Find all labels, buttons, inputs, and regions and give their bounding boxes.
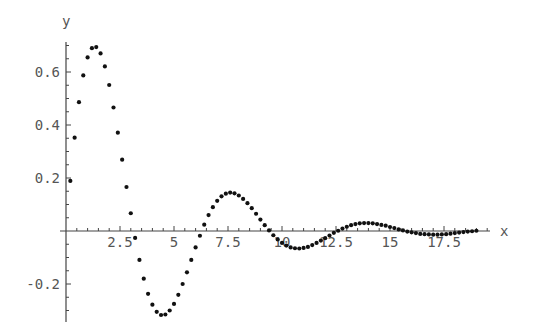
- data-point: [241, 197, 245, 201]
- data-point: [181, 282, 185, 286]
- data-point: [327, 233, 331, 237]
- data-point: [111, 105, 115, 109]
- y-axis-label: y: [62, 13, 70, 29]
- data-point: [448, 232, 452, 236]
- data-point: [332, 231, 336, 235]
- data-point: [276, 237, 280, 241]
- data-point: [284, 243, 288, 247]
- data-point: [457, 230, 461, 234]
- data-point: [172, 302, 176, 306]
- y-tick-label: 0.6: [35, 64, 60, 80]
- data-point: [254, 212, 258, 216]
- data-point: [310, 243, 314, 247]
- y-tick-label: 0.2: [35, 170, 60, 186]
- data-point: [340, 227, 344, 231]
- data-point: [349, 223, 353, 227]
- data-point: [293, 246, 297, 250]
- data-point: [211, 205, 215, 209]
- data-point: [77, 100, 81, 104]
- data-point: [98, 51, 102, 55]
- data-point: [81, 73, 85, 77]
- data-point: [68, 179, 72, 183]
- data-point: [470, 229, 474, 233]
- data-point: [418, 232, 422, 236]
- data-point: [237, 193, 241, 197]
- data-point: [345, 225, 349, 229]
- data-point: [107, 83, 111, 87]
- data-point: [358, 221, 362, 225]
- data-point: [319, 238, 323, 242]
- data-point: [155, 310, 159, 314]
- data-point: [336, 229, 340, 233]
- data-point: [302, 246, 306, 250]
- data-point: [384, 224, 388, 228]
- data-point: [401, 228, 405, 232]
- data-point: [159, 313, 163, 317]
- data-point: [73, 136, 77, 140]
- data-point: [263, 223, 267, 227]
- data-point: [94, 45, 98, 49]
- data-point: [422, 232, 426, 236]
- data-point: [323, 236, 327, 240]
- data-point: [245, 201, 249, 205]
- data-point: [444, 232, 448, 236]
- data-point: [410, 230, 414, 234]
- data-point: [250, 206, 254, 210]
- data-point: [271, 233, 275, 237]
- data-point: [280, 241, 284, 245]
- data-point: [146, 292, 150, 296]
- data-point: [150, 303, 154, 307]
- data-point: [86, 55, 90, 59]
- data-point: [405, 229, 409, 233]
- data-point: [116, 131, 120, 135]
- data-point: [440, 232, 444, 236]
- data-point: [314, 241, 318, 245]
- data-point: [453, 231, 457, 235]
- data-point: [120, 158, 124, 162]
- data-point: [371, 221, 375, 225]
- data-point: [466, 229, 470, 233]
- data-point: [297, 246, 301, 250]
- data-point: [474, 229, 478, 233]
- data-point: [366, 221, 370, 225]
- data-point: [224, 192, 228, 196]
- data-point: [232, 191, 236, 195]
- data-point: [163, 312, 167, 316]
- data-point: [289, 245, 293, 249]
- data-point: [124, 185, 128, 189]
- data-point: [185, 270, 189, 274]
- data-point: [202, 223, 206, 227]
- data-point: [189, 258, 193, 262]
- data-point: [375, 222, 379, 226]
- data-point: [228, 190, 232, 194]
- data-point: [103, 64, 107, 68]
- x-tick-label: 5: [170, 234, 178, 250]
- data-point: [461, 230, 465, 234]
- data-point: [306, 245, 310, 249]
- scatter-chart: 2.557.51012.51517.5-0.20.20.40.6xy: [0, 0, 535, 334]
- data-point: [267, 228, 271, 232]
- data-point: [219, 194, 223, 198]
- data-point: [392, 226, 396, 230]
- data-point: [388, 225, 392, 229]
- data-point: [168, 308, 172, 312]
- data-point: [431, 233, 435, 237]
- data-point: [133, 236, 137, 240]
- x-axis-label: x: [500, 223, 508, 239]
- data-point: [353, 222, 357, 226]
- data-point: [198, 234, 202, 238]
- data-point: [414, 231, 418, 235]
- data-point: [90, 46, 94, 50]
- data-point: [379, 223, 383, 227]
- data-point: [258, 218, 262, 222]
- data-point: [142, 277, 146, 281]
- data-point: [206, 213, 210, 217]
- data-point: [176, 293, 180, 297]
- data-point: [137, 258, 141, 262]
- plot-area: 2.557.51012.51517.5-0.20.20.40.6xy: [0, 0, 535, 334]
- data-point: [435, 233, 439, 237]
- data-point: [194, 245, 198, 249]
- y-tick-label: -0.2: [26, 276, 60, 292]
- data-point: [362, 221, 366, 225]
- data-point: [397, 227, 401, 231]
